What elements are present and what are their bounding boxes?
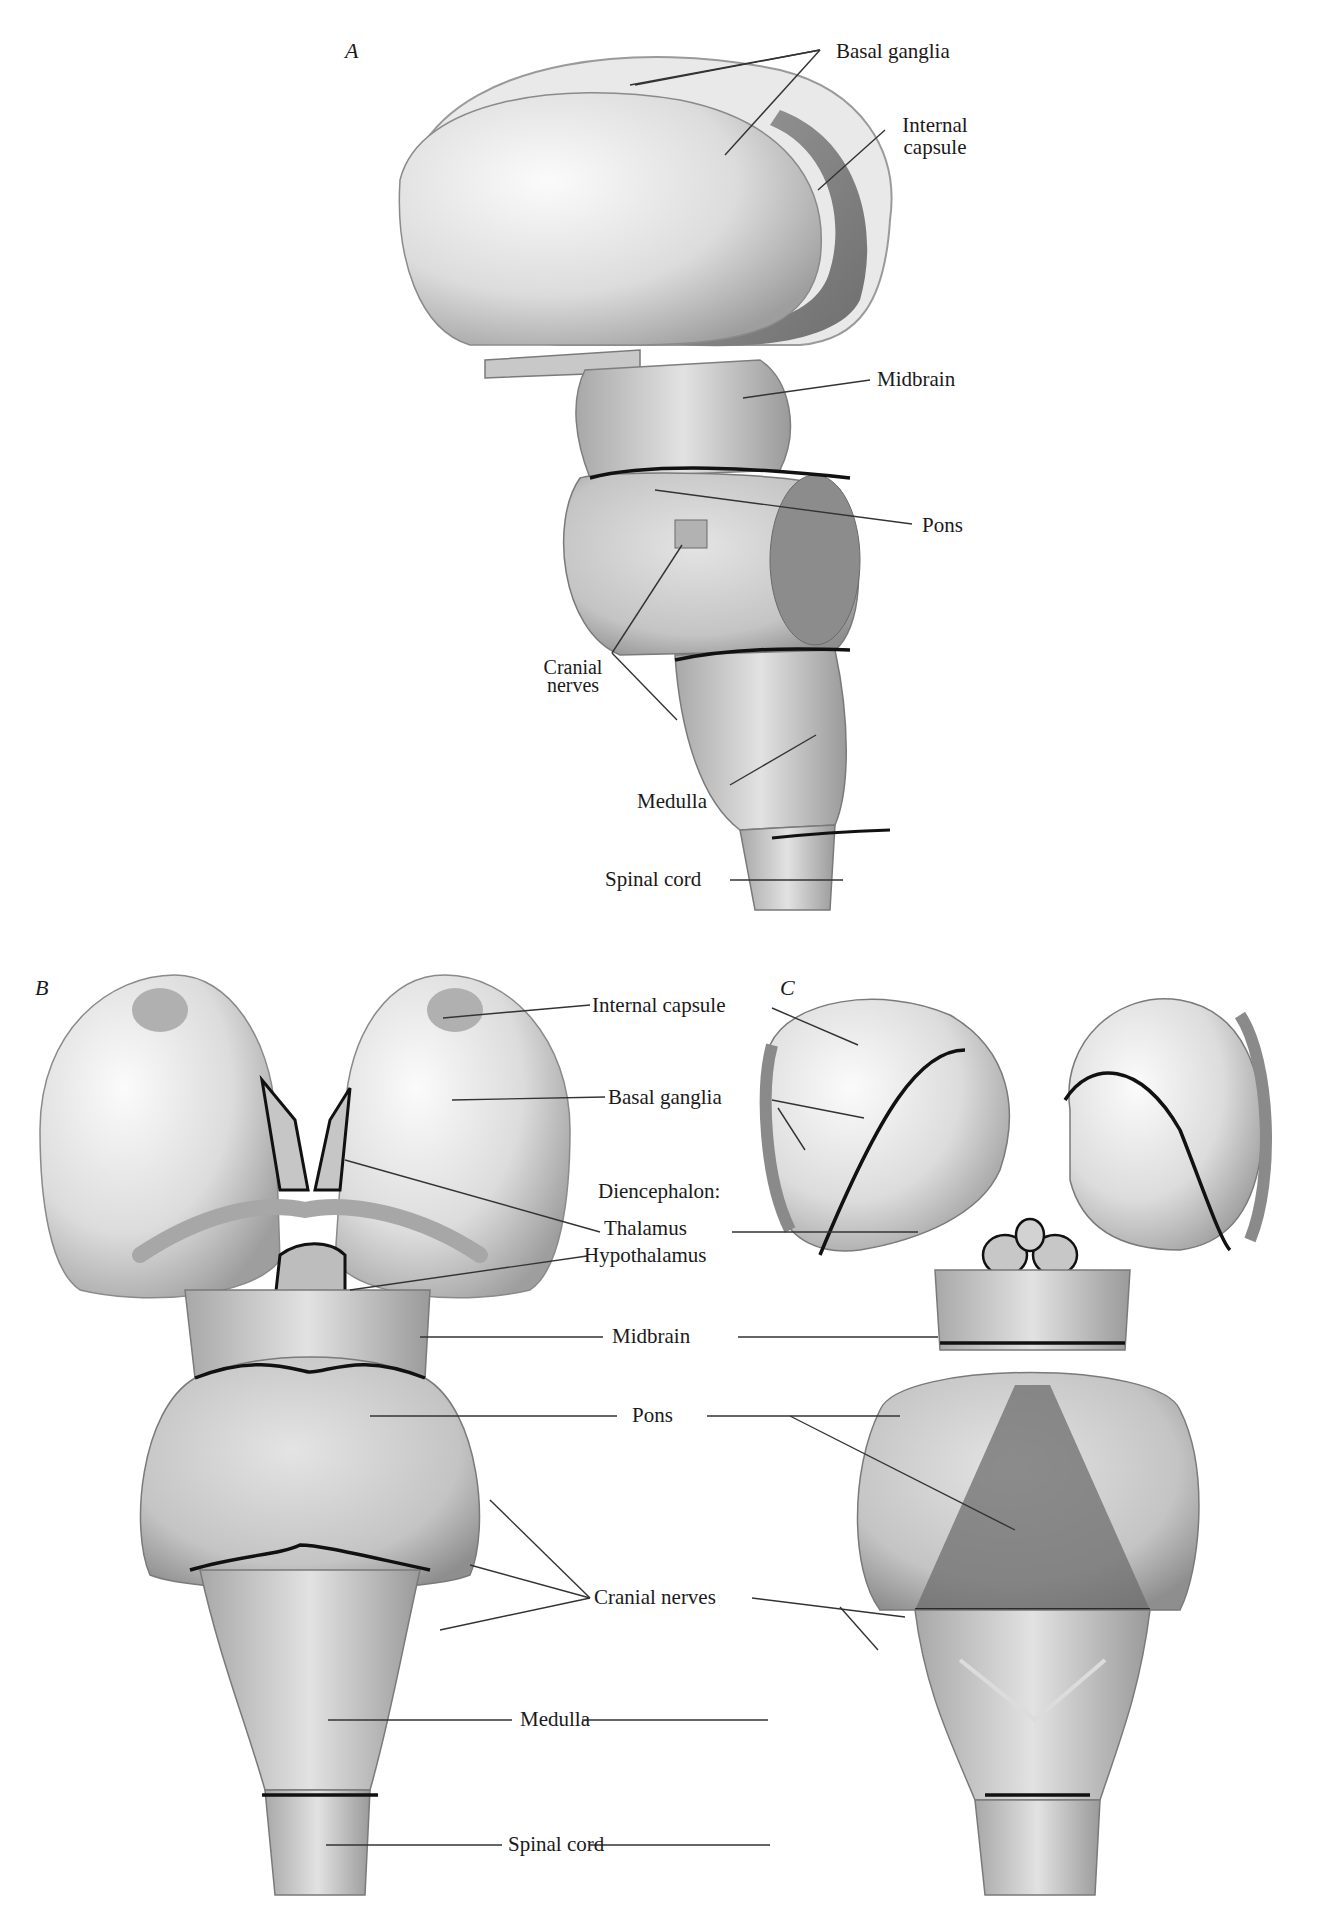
label-a-internal-capsule-line2: capsule: [890, 136, 980, 158]
panel-c-drawing: [766, 999, 1266, 1895]
label-bc-internal-capsule: Internal capsule: [592, 994, 726, 1016]
anatomical-illustration: [0, 0, 1344, 1912]
label-a-cranial-nerves-line2: nerves: [528, 674, 618, 696]
brainstem-figure: A B C Basal ganglia Internal capsule Mid…: [0, 0, 1344, 1912]
label-a-medulla: Medulla: [637, 790, 707, 812]
label-bc-spinal-cord: Spinal cord: [508, 1833, 604, 1855]
label-bc-hypothalamus: Hypothalamus: [584, 1244, 706, 1266]
label-a-internal-capsule-line1: Internal: [890, 114, 980, 136]
label-a-basal-ganglia: Basal ganglia: [836, 40, 950, 62]
panel-letter-a: A: [345, 38, 358, 64]
label-bc-midbrain: Midbrain: [612, 1325, 690, 1347]
label-bc-cranial-nerves: Cranial nerves: [594, 1586, 716, 1608]
label-bc-thalamus: Thalamus: [604, 1217, 687, 1239]
label-bc-pons: Pons: [632, 1404, 673, 1426]
label-bc-basal-ganglia: Basal ganglia: [608, 1086, 722, 1108]
label-a-midbrain: Midbrain: [877, 368, 955, 390]
label-a-spinal-cord: Spinal cord: [605, 868, 701, 890]
panel-letter-c: C: [780, 975, 795, 1001]
label-bc-medulla: Medulla: [520, 1708, 590, 1730]
panel-b-drawing: [40, 975, 570, 1895]
label-a-pons: Pons: [922, 514, 963, 536]
panel-a-drawing: [399, 57, 891, 910]
label-bc-diencephalon: Diencephalon:: [598, 1180, 720, 1202]
panel-letter-b: B: [35, 975, 48, 1001]
